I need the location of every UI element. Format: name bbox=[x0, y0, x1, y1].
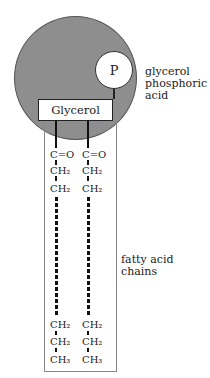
chain-2-dashed-continuation bbox=[87, 197, 90, 315]
chain-1-bond bbox=[55, 176, 57, 181]
chain-1-bond bbox=[55, 331, 57, 335]
chain-2-stem bbox=[87, 121, 89, 148]
chain-1-dashed-continuation bbox=[55, 197, 58, 315]
chain-1-ch2-b: CH₂ bbox=[50, 184, 70, 194]
chain-2-bond bbox=[87, 176, 89, 181]
phosphate-bond bbox=[113, 89, 115, 99]
chain-2-ch2-a: CH₂ bbox=[82, 166, 102, 176]
chain-1-carbonyl: C=O bbox=[50, 150, 74, 160]
glycerol-label: Glycerol bbox=[51, 103, 100, 117]
chain-1-bond bbox=[55, 348, 57, 352]
chain-2-ch2-c: CH₂ bbox=[82, 320, 102, 330]
phosphate-label: P bbox=[110, 63, 119, 78]
chain-2-carbonyl: C=O bbox=[82, 150, 106, 160]
chain-2-ch2-b: CH₂ bbox=[82, 184, 102, 194]
head-label: glycerol phosphoric acid bbox=[145, 66, 207, 102]
chain-1-ch2-a: CH₂ bbox=[50, 166, 70, 176]
chain-1-stem bbox=[55, 121, 57, 148]
tail-label: fatty acid chains bbox=[121, 254, 210, 278]
chain-1-ch2-d: CH₂ bbox=[50, 337, 70, 347]
chain-2-bond bbox=[87, 348, 89, 352]
chain-1-ch3: CH₃ bbox=[50, 355, 70, 365]
chain-1-ch2-c: CH₂ bbox=[50, 320, 70, 330]
chain-2-ch2-d: CH₂ bbox=[82, 337, 102, 347]
phosphate-circle: P bbox=[95, 51, 133, 89]
chain-2-ch3: CH₃ bbox=[82, 355, 102, 365]
chain-2-bond bbox=[87, 331, 89, 335]
glycerol-box: Glycerol bbox=[38, 99, 113, 121]
